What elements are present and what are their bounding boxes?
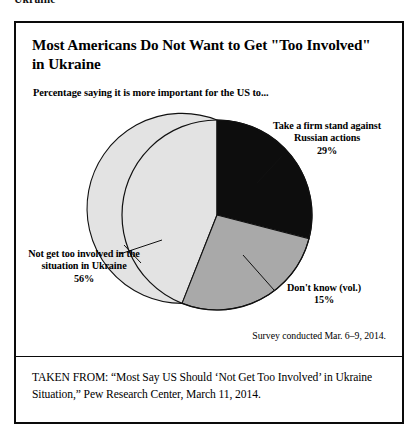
pie-label-dont-know-value: 15% [314, 294, 334, 305]
pie-chart: Take a firm stand against Russian action… [16, 23, 402, 422]
pie-label-not-involved: Not get too involved in the situation in… [28, 248, 140, 285]
pie-label-dont-know: Don't know (vol.) 15% [256, 282, 392, 307]
pie-chart-svg [16, 23, 402, 422]
pie-label-dont-know-text: Don't know (vol.) [287, 282, 361, 293]
source-attribution: TAKEN FROM: “Most Say US Should ‘Not Get… [32, 370, 384, 403]
survey-note: Survey conducted Mar. 6–9, 2014. [252, 330, 386, 341]
pie-label-firm-stand-text: Take a firm stand against Russian action… [273, 120, 381, 143]
pie-label-firm-stand-value: 29% [317, 145, 337, 156]
running-head: Ukraine [14, 0, 56, 5]
divider [16, 356, 402, 357]
pie-label-not-involved-value: 56% [74, 273, 94, 284]
pie-label-firm-stand: Take a firm stand against Russian action… [268, 120, 386, 157]
pie-label-not-involved-text: Not get too involved in the situation in… [28, 248, 139, 271]
figure-box: Most Americans Do Not Want to Get "Too I… [14, 21, 404, 424]
